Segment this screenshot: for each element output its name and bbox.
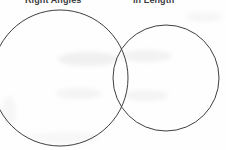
venn-circle-right: [113, 25, 219, 131]
worksheet-scan: Right Angles in Length: [0, 0, 226, 150]
venn-circle-left: [0, 10, 128, 146]
venn-diagram: [0, 0, 226, 150]
